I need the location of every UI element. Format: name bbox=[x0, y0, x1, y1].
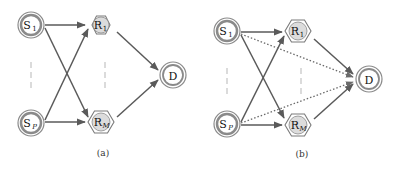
node-rm: R M bbox=[88, 111, 114, 133]
node-rm: R M bbox=[285, 114, 311, 136]
svg-text:M: M bbox=[101, 122, 110, 130]
node-d: D bbox=[160, 62, 186, 88]
svg-text:R: R bbox=[94, 19, 103, 32]
node-r1: R 1 bbox=[92, 16, 110, 34]
edges-b bbox=[241, 32, 353, 125]
svg-text:1: 1 bbox=[32, 25, 36, 33]
node-sp: S P bbox=[214, 111, 240, 137]
svg-text:D: D bbox=[365, 74, 374, 87]
edge-r1-d bbox=[314, 39, 353, 74]
node-sp: S P bbox=[18, 110, 44, 136]
svg-text:S: S bbox=[23, 117, 31, 130]
caption-a: (a) bbox=[97, 148, 109, 158]
svg-text:S: S bbox=[23, 19, 31, 32]
node-r1: R 1 bbox=[285, 20, 311, 42]
svg-text:D: D bbox=[169, 70, 178, 83]
svg-text:S: S bbox=[219, 118, 227, 131]
node-s1: S 1 bbox=[18, 12, 44, 38]
svg-text:P: P bbox=[31, 123, 37, 131]
svg-text:1: 1 bbox=[300, 31, 304, 39]
svg-text:1: 1 bbox=[228, 31, 232, 39]
svg-text:R: R bbox=[291, 25, 300, 38]
diagram-canvas: S 1 S P R 1 R M D (a) bbox=[0, 0, 396, 171]
edge-r1-d bbox=[117, 32, 158, 70]
edges-a bbox=[45, 25, 158, 122]
svg-text:1: 1 bbox=[103, 25, 107, 33]
node-s1: S 1 bbox=[214, 18, 240, 44]
svg-text:S: S bbox=[219, 25, 227, 38]
caption-b: (b) bbox=[296, 149, 309, 159]
direct-edges-b bbox=[241, 34, 353, 123]
svg-text:P: P bbox=[227, 124, 233, 132]
svg-text:M: M bbox=[298, 125, 307, 133]
panel-b: S 1 S P R 1 R M D (b) bbox=[214, 18, 382, 159]
node-d: D bbox=[356, 66, 382, 92]
panel-a: S 1 S P R 1 R M D (a) bbox=[18, 12, 186, 158]
edge-rm-d bbox=[117, 80, 158, 117]
